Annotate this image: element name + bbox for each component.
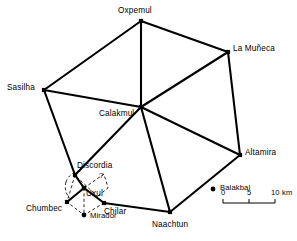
edge-lamuneca-calakmul bbox=[141, 52, 228, 107]
site-node-altamira[interactable] bbox=[238, 153, 242, 157]
edge-sasilha-discordia bbox=[44, 90, 75, 175]
site-node-balakbal[interactable] bbox=[211, 187, 216, 192]
site-label-altamira: Altamira bbox=[245, 149, 276, 157]
site-label-discordia: Discordia bbox=[77, 162, 112, 170]
edge-calakmul-naachtun bbox=[141, 107, 170, 212]
map-canvas: OxpemulLa MuñecaSasilhaCalakmulAltamiraN… bbox=[0, 0, 297, 241]
site-label-sasilha: Sasilha bbox=[7, 84, 35, 92]
site-node-naachtun[interactable] bbox=[168, 210, 172, 214]
site-node-chilar[interactable] bbox=[102, 201, 106, 205]
site-label-oxpemul: Oxpemul bbox=[118, 7, 152, 15]
site-node-sasilha[interactable] bbox=[42, 88, 46, 92]
site-node-discordia[interactable] bbox=[73, 173, 77, 177]
site-label-uxul: Uxul bbox=[86, 190, 103, 198]
scale-tick-label-2: 10 km bbox=[271, 189, 292, 197]
edge-sasilha-calakmul bbox=[44, 90, 141, 107]
scale-tick-label-0: 0 bbox=[221, 189, 225, 197]
site-node-mirador[interactable] bbox=[82, 213, 87, 218]
site-label-mirador: Mirador bbox=[90, 212, 117, 220]
site-label-chumbec: Chumbec bbox=[26, 205, 62, 213]
scale-bar-graphic bbox=[223, 199, 275, 203]
uncertainty-question-mark: ? bbox=[99, 172, 104, 180]
scale-tick-label-1: 5 bbox=[247, 189, 251, 197]
edge-lamuneca-altamira bbox=[228, 52, 240, 155]
site-node-oxpemul[interactable] bbox=[139, 19, 143, 23]
edge-oxpemul-sasilha bbox=[44, 21, 141, 90]
edge-oxpemul-lamuneca bbox=[141, 21, 228, 52]
edge-calakmul-altamira bbox=[141, 107, 240, 155]
site-node-chumbec[interactable] bbox=[65, 200, 69, 204]
site-label-naachtun: Naachtun bbox=[152, 221, 188, 229]
site-node-lamuneca[interactable] bbox=[226, 50, 230, 54]
site-label-lamuneca: La Muñeca bbox=[233, 45, 275, 53]
site-node-calakmul[interactable] bbox=[139, 105, 143, 109]
site-label-calakmul: Calakmul bbox=[99, 110, 134, 118]
solid-edge-layer bbox=[44, 21, 240, 212]
